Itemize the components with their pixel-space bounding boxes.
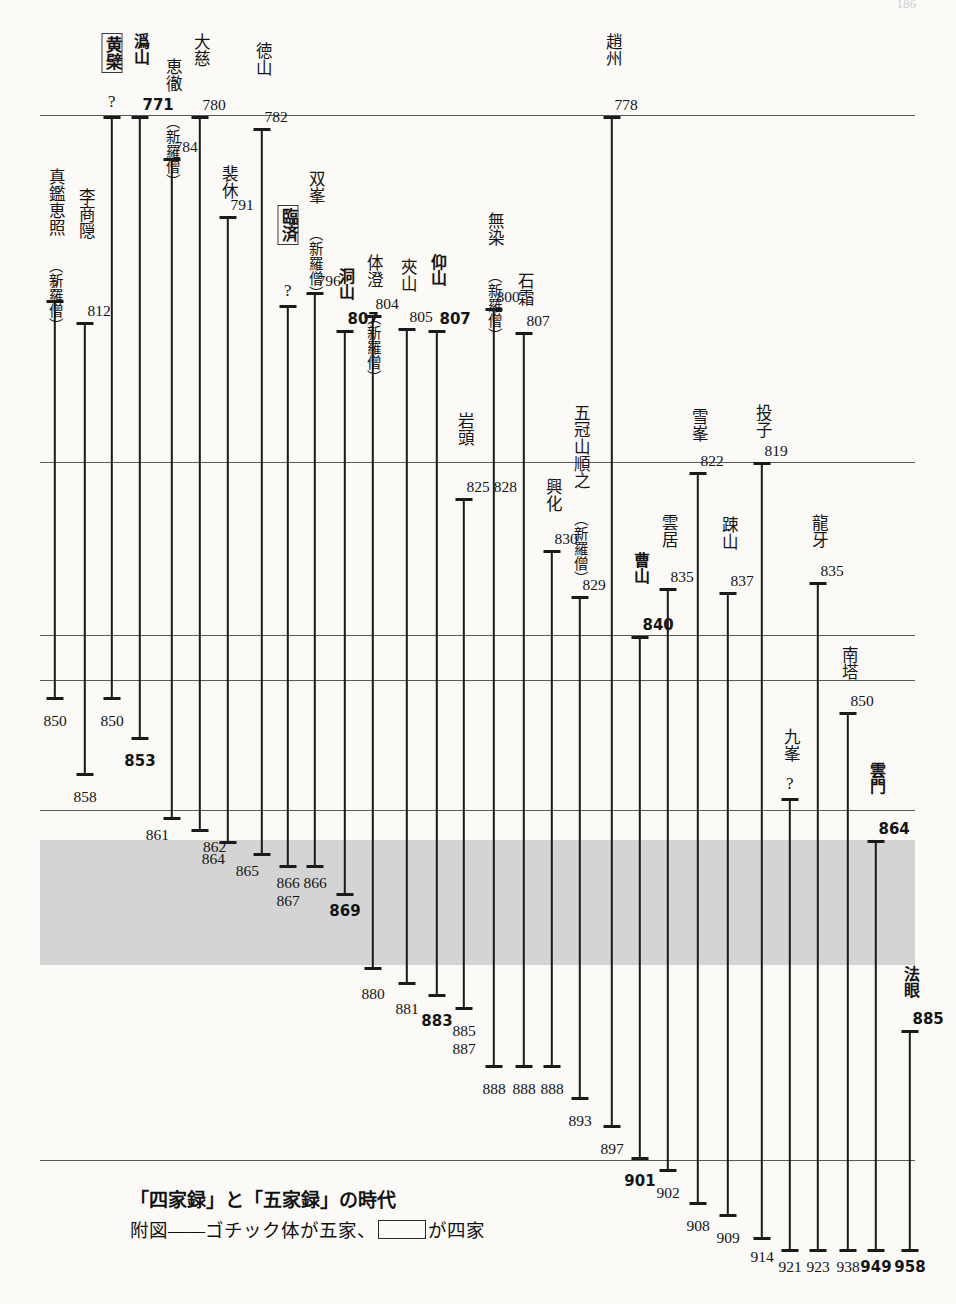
start-year: 864 bbox=[879, 820, 910, 838]
end-year: 958 bbox=[894, 1258, 925, 1276]
lifeline-start-cap bbox=[254, 128, 271, 131]
end-year: 850 bbox=[100, 712, 123, 730]
lineage-name-label: 踈山 bbox=[720, 516, 737, 550]
lifeline-end-cap bbox=[604, 1125, 621, 1128]
end-year: 901 bbox=[624, 1172, 655, 1190]
lineage-name-label: 石霜 bbox=[516, 272, 533, 306]
lifeline-end-cap bbox=[192, 829, 209, 832]
lifeline bbox=[847, 712, 849, 1252]
lifeline-end-cap bbox=[840, 1249, 857, 1252]
timeline-diagram: 186 真鑑恵照?850（新羅僧）李商隠812858黄檗?850潙山771853… bbox=[0, 0, 956, 1304]
end-year: 885 887 bbox=[452, 1022, 475, 1058]
lineage-name-label: 夾山 bbox=[399, 258, 416, 292]
end-year: 921 bbox=[778, 1258, 801, 1276]
lifeline bbox=[875, 840, 877, 1252]
lineage-name-label: 大慈 bbox=[192, 33, 209, 67]
lifeline-end-cap bbox=[572, 1097, 589, 1100]
lifeline-end-cap bbox=[690, 1202, 707, 1205]
end-year: 902 bbox=[656, 1184, 679, 1202]
legend-box-glyph bbox=[378, 1220, 426, 1239]
lifeline-end-cap bbox=[782, 1249, 799, 1252]
lineage-name-label: 龍牙 bbox=[810, 514, 827, 548]
lifeline-end-cap bbox=[399, 982, 416, 985]
end-year: 869 bbox=[329, 902, 360, 920]
lineage-name-label: 法眼 bbox=[902, 966, 918, 998]
lifeline-end-cap bbox=[220, 841, 237, 844]
lineage-annotation: （新羅僧） bbox=[307, 226, 322, 301]
end-year: 914 bbox=[750, 1248, 773, 1266]
end-year: 893 bbox=[568, 1112, 591, 1130]
caption-legend: 附図——ゴチック体が五家、が四家 bbox=[130, 1216, 485, 1242]
lifeline-start-cap bbox=[544, 550, 561, 553]
figure-caption: 「四家録」と「五家録」の時代 附図——ゴチック体が五家、が四家 bbox=[130, 1185, 485, 1242]
lifeline bbox=[111, 116, 113, 700]
start-year: 778 bbox=[615, 96, 638, 114]
end-year: 923 bbox=[806, 1258, 829, 1276]
lifeline-start-cap bbox=[220, 216, 237, 219]
lifeline bbox=[611, 116, 613, 1128]
caption-legend-pre: 附図——ゴチック体が五家、 bbox=[130, 1221, 376, 1241]
lifeline bbox=[727, 592, 729, 1217]
start-year: 825 828 bbox=[467, 478, 517, 496]
end-year: 858 bbox=[73, 788, 96, 806]
lifeline-end-cap bbox=[132, 737, 149, 740]
lifeline-end-cap bbox=[254, 853, 271, 856]
lifeline-end-cap bbox=[429, 994, 446, 997]
lineage-name-label: 双峯 bbox=[307, 170, 324, 204]
end-year: 853 bbox=[124, 752, 155, 770]
start-year-unknown: ? bbox=[786, 774, 794, 794]
lineage-name-label: 潙山 bbox=[132, 33, 148, 65]
lifeline-start-cap bbox=[132, 116, 149, 119]
lineage-annotation: （新羅僧） bbox=[486, 268, 501, 343]
start-year: 835 bbox=[671, 568, 694, 586]
lifeline bbox=[909, 1030, 911, 1252]
end-year: 865 bbox=[236, 862, 262, 880]
lifeline bbox=[261, 128, 263, 856]
lifeline-end-cap bbox=[516, 1065, 533, 1068]
lifeline-end-cap bbox=[307, 865, 324, 868]
lifeline-start-cap bbox=[660, 588, 677, 591]
lifeline bbox=[697, 472, 699, 1205]
lineage-name-label: 臨済 bbox=[278, 205, 299, 245]
lineage-name-label: 岩頭 bbox=[456, 412, 473, 446]
start-year: 819 bbox=[765, 442, 788, 460]
end-year: 881 bbox=[395, 1000, 418, 1018]
start-year-unknown: ? bbox=[108, 92, 116, 112]
lifeline bbox=[171, 158, 173, 820]
start-year: 791 bbox=[231, 196, 254, 214]
lineage-name-label: 趙州 bbox=[604, 33, 621, 67]
lineage-name-label: 興化 bbox=[544, 478, 561, 512]
lineage-name-label: 仰山 bbox=[429, 254, 445, 286]
lifeline-start-cap bbox=[782, 798, 799, 801]
lineage-name-label: 真鑑恵照 bbox=[47, 168, 64, 236]
end-year: 866 867 bbox=[276, 874, 299, 910]
lifeline-start-cap bbox=[902, 1030, 919, 1033]
start-year: 837 bbox=[731, 572, 754, 590]
lifeline-start-cap bbox=[456, 498, 473, 501]
lifeline-end-cap bbox=[164, 817, 181, 820]
lifeline-start-cap bbox=[104, 116, 121, 119]
start-year: 822 bbox=[701, 452, 724, 470]
lifeline bbox=[344, 330, 346, 896]
lifeline-end-cap bbox=[456, 1007, 473, 1010]
end-year: 897 bbox=[600, 1140, 623, 1158]
lineage-name-label: 体澄 bbox=[365, 254, 382, 288]
end-year: 949 bbox=[860, 1258, 891, 1276]
start-year: 885 bbox=[913, 1010, 944, 1028]
lifeline-start-cap bbox=[868, 840, 885, 843]
lineage-name-label: 洞山 bbox=[337, 268, 353, 300]
lineage-name-label: 投子 bbox=[754, 404, 771, 438]
end-year: 908 bbox=[686, 1217, 709, 1235]
lifeline-end-cap bbox=[544, 1065, 561, 1068]
lineage-name-label: 雲門 bbox=[868, 762, 884, 794]
end-year: 888 bbox=[482, 1080, 505, 1098]
lifeline bbox=[463, 498, 465, 1010]
lifeline-end-cap bbox=[104, 697, 121, 700]
lifeline-end-cap bbox=[47, 697, 64, 700]
lifeline-start-cap bbox=[337, 330, 354, 333]
lineage-name-label: 曹山 bbox=[632, 552, 648, 584]
lifeline-start-cap bbox=[77, 322, 94, 325]
start-year: 807 bbox=[527, 312, 550, 330]
lifeline-start-cap bbox=[192, 116, 209, 119]
start-year: 835 bbox=[821, 562, 844, 580]
